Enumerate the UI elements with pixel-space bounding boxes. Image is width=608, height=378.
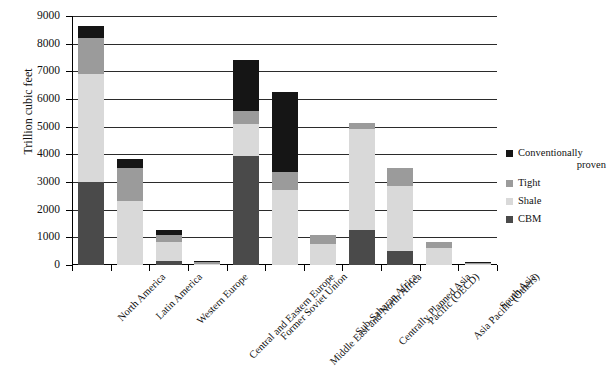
x-tick-mark [149, 265, 150, 271]
x-tick-mark [458, 265, 459, 271]
bar-segment [272, 190, 298, 265]
bar-segment [117, 159, 143, 168]
bar-segment [156, 242, 182, 261]
legend-swatch-icon [506, 216, 513, 223]
bar-latin-america [117, 159, 143, 265]
bar-segment [233, 111, 259, 123]
legend-label-line: proven [518, 159, 606, 171]
bar-segment [194, 264, 220, 265]
bar-segment [349, 123, 375, 130]
bar-segment [349, 129, 375, 230]
x-tick-mark [188, 265, 189, 271]
bar-segment [426, 248, 452, 265]
bar-segment [117, 201, 143, 265]
legend-label: Conventionallyproven [518, 147, 606, 171]
bar-segment [156, 235, 182, 242]
x-tick-mark [227, 265, 228, 271]
bar-segment [78, 182, 104, 265]
bar-segment [387, 168, 413, 186]
chart-legend: ConventionallyprovenTightShaleCBM [506, 147, 606, 231]
bar-segment [78, 38, 104, 74]
bar-segment [272, 172, 298, 190]
x-tick-mark [304, 265, 305, 271]
bar-sub-saharan-africa [310, 235, 336, 265]
bar-middle-east-and-north-africa [272, 92, 298, 265]
bar-segment [117, 168, 143, 201]
bar-segment [233, 60, 259, 111]
x-tick-mark [497, 265, 498, 271]
bar-centrally-planned-asia [349, 123, 375, 265]
x-tick-mark [111, 265, 112, 271]
bar-segment [465, 264, 491, 265]
legend-label-line: Conventionally [518, 147, 606, 159]
bar-north-america [78, 26, 104, 265]
x-tick-mark [381, 265, 382, 271]
x-tick-mark [342, 265, 343, 271]
bar-segment [233, 124, 259, 156]
legend-label: CBM [518, 213, 606, 225]
bar-segment [310, 244, 336, 265]
bar-segment [78, 26, 104, 38]
legend-label: Tight [518, 177, 606, 189]
bar-segment [349, 230, 375, 265]
legend-swatch-icon [506, 198, 513, 205]
legend-item: Shale [506, 195, 606, 208]
x-tick-mark [72, 265, 73, 271]
legend-item: Tight [506, 177, 606, 190]
bar-pacific-oecd [387, 168, 413, 265]
bar-central-and-eastern-europe [194, 261, 220, 265]
bar-segment [310, 235, 336, 244]
bar-segment [387, 186, 413, 251]
legend-label: Shale [518, 195, 606, 207]
bar-segment [156, 261, 182, 265]
x-tick-mark [265, 265, 266, 271]
x-tick-mark [420, 265, 421, 271]
bar-former-soviet-union [233, 60, 259, 265]
bar-segment [272, 92, 298, 172]
bar-south-asia [465, 262, 491, 265]
legend-swatch-icon [506, 150, 513, 157]
bar-western-europe [156, 230, 182, 265]
bar-segment [233, 156, 259, 265]
bar-segment [387, 251, 413, 265]
bar-asia-pacific-others [426, 242, 452, 265]
legend-item: Conventionallyproven [506, 147, 606, 171]
legend-item: CBM [506, 213, 606, 226]
legend-swatch-icon [506, 180, 513, 187]
chart-container: Trillion cubic feet 01000200030004000500… [0, 0, 608, 378]
bar-segment [78, 74, 104, 182]
